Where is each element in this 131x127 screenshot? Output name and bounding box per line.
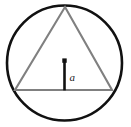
figure-canvas: a bbox=[0, 0, 131, 127]
circle-center-dot bbox=[62, 58, 66, 62]
geometry-figure: a bbox=[0, 0, 131, 127]
apothem-label: a bbox=[70, 71, 76, 83]
